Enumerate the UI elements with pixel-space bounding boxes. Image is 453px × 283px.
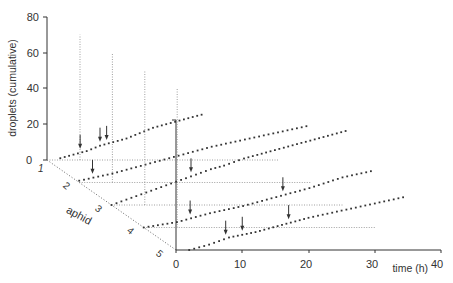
x-tick-30: 30 bbox=[366, 258, 378, 270]
x-tick-10: 10 bbox=[234, 258, 246, 270]
z-tick-1: 1 bbox=[38, 163, 44, 174]
y-tick-20: 20 bbox=[27, 118, 39, 130]
z-tick-5: 5 bbox=[154, 248, 166, 260]
event-arrow-icon bbox=[287, 205, 291, 219]
droplets-waterfall-chart: 80 60 40 20 0 droplets (cumulative) 1 2 … bbox=[0, 0, 453, 283]
event-arrow-icon bbox=[281, 177, 285, 191]
x-tick-40: 40 bbox=[431, 258, 443, 270]
event-arrow-icon bbox=[78, 135, 82, 149]
x-tick-20: 20 bbox=[300, 258, 312, 270]
event-arrow-icon bbox=[188, 201, 192, 215]
y-tick-40: 40 bbox=[27, 82, 39, 94]
aphid-planes bbox=[0, 0, 404, 251]
y-tick-0: 0 bbox=[26, 154, 32, 166]
z-tick-4: 4 bbox=[125, 225, 137, 237]
x-axis-label: time (h) bbox=[392, 262, 428, 274]
y-axis: 80 60 40 20 0 droplets (cumulative) bbox=[6, 11, 47, 166]
chart-canvas: 80 60 40 20 0 droplets (cumulative) 1 2 … bbox=[0, 0, 453, 283]
aphid-5-series bbox=[188, 196, 404, 251]
event-arrow-icon bbox=[189, 158, 193, 172]
event-arrow-icon bbox=[98, 128, 102, 142]
z-tick-3: 3 bbox=[93, 203, 105, 215]
aphid-1-series bbox=[0, 0, 279, 160]
event-arrow-icon bbox=[105, 126, 109, 140]
event-arrow-icon bbox=[240, 217, 244, 231]
event-arrow-icon bbox=[91, 160, 95, 174]
z-axis-label: aphid bbox=[64, 204, 93, 227]
aphid-3-series bbox=[0, 0, 347, 206]
y-tick-60: 60 bbox=[27, 47, 39, 59]
y-axis-label: droplets (cumulative) bbox=[6, 39, 18, 136]
y-tick-80: 80 bbox=[27, 11, 39, 23]
aphid-4-series bbox=[0, 0, 376, 228]
x-tick-0: 0 bbox=[173, 258, 179, 270]
z-tick-2: 2 bbox=[61, 180, 73, 192]
